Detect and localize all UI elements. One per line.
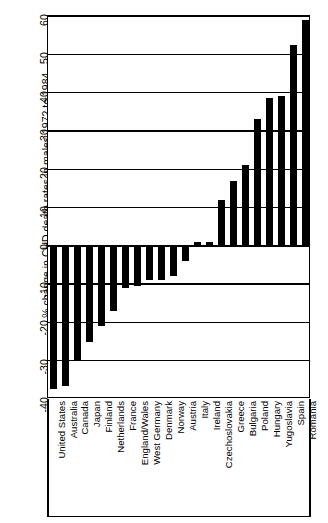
category-label: United States — [57, 343, 67, 401]
category-label-text: United States — [57, 401, 67, 459]
chart-figure: % change in CHD death rates in males 197… — [0, 0, 328, 523]
bar — [182, 246, 189, 261]
category-label-text: Denmark — [164, 401, 174, 440]
category-label-text: Poland — [260, 401, 270, 431]
category-label: Netherlands — [116, 349, 126, 401]
category-label: Spain — [296, 376, 306, 401]
category-label-text: Italy — [200, 401, 210, 419]
bar — [302, 20, 309, 246]
category-label: France — [128, 371, 138, 401]
category-label: Australia — [69, 364, 79, 401]
category-label: Yugoslavia — [284, 355, 294, 401]
bar — [98, 246, 105, 326]
category-label-text: Yugoslavia — [284, 401, 294, 447]
bar — [158, 246, 165, 280]
category-label: England/Wales — [140, 337, 150, 401]
category-label-text: Finland — [104, 401, 114, 432]
category-label: Finland — [104, 370, 114, 401]
category-label-text: Czechoslovakia — [224, 401, 234, 468]
category-label-text: Japan — [92, 401, 102, 427]
category-label-text: Bulgaria — [248, 401, 258, 436]
category-label: Bulgaria — [248, 366, 258, 401]
bar — [110, 246, 117, 311]
bar — [254, 119, 261, 245]
bar — [194, 242, 201, 246]
category-label: Denmark — [164, 362, 174, 401]
category-label: Romania — [308, 363, 318, 401]
x-axis-category-labels: United StatesAustraliaCanadaJapanFinland… — [47, 399, 310, 523]
category-frame-right — [309, 399, 311, 517]
category-label: West Germany — [152, 337, 162, 401]
plot-area — [47, 15, 310, 398]
bar — [290, 45, 297, 246]
category-label: Austria — [188, 371, 198, 401]
category-label-text: Netherlands — [116, 401, 126, 453]
category-label: Ireland — [212, 372, 222, 401]
category-label-text: Canada — [80, 401, 90, 435]
bar — [242, 165, 249, 245]
bar — [170, 246, 177, 277]
category-label: Hungary — [272, 365, 282, 401]
bar — [230, 181, 237, 246]
category-label-text: Austria — [188, 401, 198, 431]
category-label: Japan — [92, 375, 102, 401]
category-frame-left — [47, 399, 49, 517]
bar — [218, 200, 225, 246]
category-label: Czechoslovakia — [224, 334, 234, 401]
bar-series — [48, 16, 309, 397]
category-frame-bottom — [47, 516, 310, 517]
bar — [206, 242, 213, 246]
bar — [146, 246, 153, 280]
bar — [134, 246, 141, 286]
category-label: Italy — [200, 383, 210, 401]
category-label-text: West Germany — [152, 401, 162, 465]
category-label-text: England/Wales — [140, 401, 150, 465]
category-label-text: Hungary — [272, 401, 282, 437]
bar — [122, 246, 129, 288]
category-label-text: Ireland — [212, 401, 222, 430]
category-label: Greece — [236, 370, 246, 401]
category-label-text: Greece — [236, 401, 246, 432]
bar — [86, 246, 93, 342]
category-label: Norway — [176, 368, 186, 401]
category-label-text: Spain — [296, 401, 306, 426]
category-label-text: Norway — [176, 401, 186, 434]
bar — [74, 246, 81, 361]
category-label-text: Australia — [69, 401, 79, 438]
category-label-text: France — [128, 401, 138, 431]
category-label: Poland — [260, 371, 270, 401]
bar — [266, 98, 273, 245]
category-label: Canada — [80, 367, 90, 401]
bar — [278, 96, 285, 245]
